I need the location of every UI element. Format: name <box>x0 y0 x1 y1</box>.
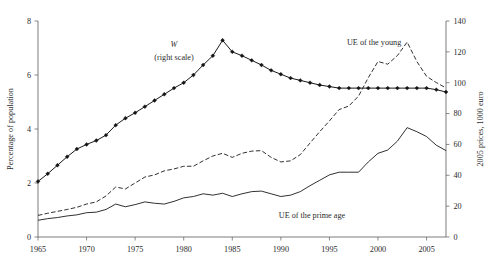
series-marker <box>347 86 351 90</box>
right-axis-ticks: 020406080100120140 <box>446 17 466 242</box>
series-marker <box>415 86 419 90</box>
series-ue-of-the-young <box>38 42 446 215</box>
series-ue-of-the-prime-age <box>38 128 446 221</box>
right-tick-label: 120 <box>454 48 466 57</box>
bottom-tick-label: 1990 <box>273 245 289 254</box>
series-marker <box>434 88 438 92</box>
bottom-tick-label: 2005 <box>418 245 434 254</box>
left-tick-label: 2 <box>27 179 31 188</box>
series-marker <box>85 142 89 146</box>
right-tick-label: 80 <box>454 109 462 118</box>
annotation-layer: W(right scale)UE of the youngUE of the p… <box>154 38 401 220</box>
right-tick-label: 20 <box>454 202 462 211</box>
right-tick-label: 100 <box>454 79 466 88</box>
series-marker <box>337 86 341 90</box>
bottom-tick-label: 1975 <box>127 245 143 254</box>
left-axis-ticks: 02468 <box>27 17 38 242</box>
bottom-tick-label: 1995 <box>321 245 337 254</box>
series-marker <box>279 72 283 76</box>
series-w <box>36 38 448 183</box>
series-marker <box>425 86 429 90</box>
bottom-axis-ticks: 196519701975198019851990199520002005 <box>30 237 435 254</box>
right-tick-label: 140 <box>454 17 466 26</box>
series-line <box>38 40 446 181</box>
series-marker <box>269 68 273 72</box>
chart-annotation: (right scale) <box>154 53 194 62</box>
chart-annotation: W <box>171 40 179 49</box>
left-tick-label: 4 <box>27 125 31 134</box>
chart-annotation: UE of the prime age <box>279 211 346 220</box>
right-axis-title: 2005 prices, 1000 euro <box>476 91 485 166</box>
series-marker <box>357 86 361 90</box>
series-marker <box>298 78 302 82</box>
right-tick-label: 0 <box>454 233 458 242</box>
series-marker <box>94 139 98 143</box>
series-layer <box>36 38 448 220</box>
series-line <box>38 128 446 221</box>
series-marker <box>376 86 380 90</box>
series-marker <box>327 85 331 89</box>
right-tick-label: 60 <box>454 140 462 149</box>
bottom-tick-label: 1985 <box>224 245 240 254</box>
series-marker <box>308 81 312 85</box>
series-marker <box>386 86 390 90</box>
left-axis-group: 02468 Percentage of population <box>6 17 38 242</box>
series-marker <box>366 86 370 90</box>
left-tick-label: 0 <box>27 233 31 242</box>
bottom-tick-label: 1970 <box>78 245 94 254</box>
chart-annotation: UE of the young <box>347 38 401 47</box>
series-marker <box>405 86 409 90</box>
bottom-axis-group: 196519701975198019851990199520002005 <box>30 237 446 254</box>
left-tick-label: 6 <box>27 71 31 80</box>
chart-container: 02468 Percentage of population 020406080… <box>0 0 493 267</box>
chart-svg: 02468 Percentage of population 020406080… <box>0 0 493 267</box>
bottom-tick-label: 2000 <box>370 245 386 254</box>
bottom-tick-label: 1965 <box>30 245 46 254</box>
series-marker <box>259 63 263 67</box>
series-line <box>38 42 446 215</box>
series-marker <box>289 76 293 80</box>
right-tick-label: 40 <box>454 171 462 180</box>
series-marker <box>240 54 244 58</box>
right-axis-group: 020406080100120140 2005 prices, 1000 eur… <box>446 17 485 242</box>
series-marker <box>250 58 254 62</box>
series-marker <box>318 83 322 87</box>
left-tick-label: 8 <box>27 17 31 26</box>
bottom-tick-label: 1980 <box>176 245 192 254</box>
series-marker <box>444 90 448 94</box>
series-marker <box>395 86 399 90</box>
left-axis-title: Percentage of population <box>6 88 15 170</box>
